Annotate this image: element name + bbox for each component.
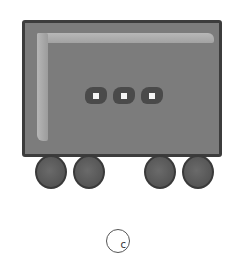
box-car-body	[22, 20, 222, 157]
wheel-rear-left	[144, 155, 176, 189]
car-windows	[85, 87, 163, 104]
copyright-letter: c	[121, 240, 127, 250]
wheel-front-right	[73, 155, 105, 189]
window-light	[121, 93, 127, 99]
car-top-highlight	[37, 33, 214, 43]
car-left-highlight	[37, 33, 48, 141]
car-window	[141, 87, 163, 104]
wheel-front-left	[35, 155, 67, 189]
car-window	[85, 87, 107, 104]
window-light	[149, 93, 155, 99]
car-window	[113, 87, 135, 104]
copyright-icon: c	[106, 229, 130, 253]
window-light	[93, 93, 99, 99]
wheel-rear-right	[182, 155, 214, 189]
